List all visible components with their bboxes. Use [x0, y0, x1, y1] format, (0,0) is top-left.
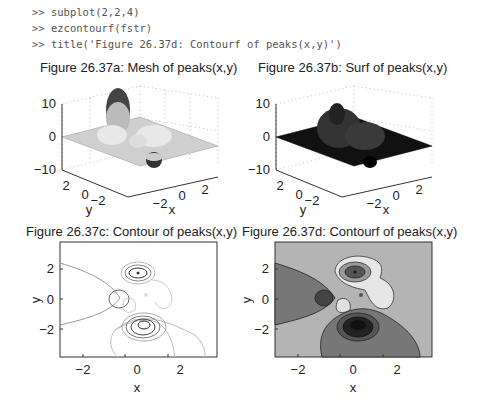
svg-text:x: x — [169, 202, 176, 217]
svg-text:2: 2 — [415, 182, 422, 197]
figure-canvas: 10 0 −10 2 0 −2 y −2 0 2 x 10 0 −10 2 0 … — [0, 0, 484, 400]
svg-text:0: 0 — [262, 292, 269, 307]
svg-text:0: 0 — [263, 129, 270, 144]
svg-text:x: x — [134, 380, 141, 395]
svg-text:2: 2 — [262, 261, 269, 276]
svg-text:−2: −2 — [254, 322, 269, 337]
svg-text:2: 2 — [62, 178, 69, 193]
svg-text:2: 2 — [47, 261, 54, 276]
svg-text:−2: −2 — [367, 196, 382, 211]
svg-text:0: 0 — [81, 187, 88, 202]
svg-text:2: 2 — [393, 362, 400, 377]
svg-text:−2: −2 — [305, 193, 320, 208]
svg-text:0: 0 — [133, 362, 140, 377]
svg-text:x: x — [383, 202, 390, 217]
plot-b-surf: 10 0 −10 2 0 −2 y −2 0 2 x — [248, 86, 432, 217]
svg-text:−10: −10 — [34, 162, 56, 177]
svg-text:−2: −2 — [153, 196, 168, 211]
svg-text:0: 0 — [295, 187, 302, 202]
svg-text:0: 0 — [349, 362, 356, 377]
plot-d-contourf: −2 0 2 x 2 0 −2 y — [239, 242, 432, 395]
svg-text:y: y — [300, 202, 307, 217]
svg-text:−2: −2 — [39, 322, 54, 337]
svg-text:y: y — [28, 296, 43, 303]
svg-text:2: 2 — [276, 178, 283, 193]
plot-a-mesh: 10 0 −10 2 0 −2 y −2 0 2 x — [34, 86, 218, 217]
svg-text:0: 0 — [47, 292, 54, 307]
svg-text:−10: −10 — [248, 162, 270, 177]
svg-text:x: x — [350, 380, 357, 395]
svg-text:10: 10 — [42, 96, 56, 111]
plot-c-contour: −2 0 2 x 2 0 −2 y — [28, 242, 217, 395]
svg-text:−2: −2 — [291, 362, 306, 377]
svg-text:0: 0 — [178, 188, 185, 203]
svg-text:10: 10 — [256, 96, 270, 111]
svg-text:−2: −2 — [76, 362, 91, 377]
svg-text:−2: −2 — [91, 193, 106, 208]
svg-text:0: 0 — [392, 188, 399, 203]
svg-text:2: 2 — [201, 182, 208, 197]
svg-text:y: y — [239, 296, 254, 303]
svg-text:2: 2 — [176, 362, 183, 377]
svg-text:y: y — [86, 202, 93, 217]
svg-text:0: 0 — [49, 129, 56, 144]
